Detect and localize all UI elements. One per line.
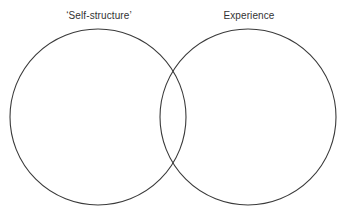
label-self-structure: ‘Self-structure’	[66, 10, 132, 22]
venn-diagram-svg	[0, 0, 351, 213]
label-experience: Experience	[223, 10, 274, 22]
venn-diagram: ‘Self-structure’ Experience	[0, 0, 351, 213]
